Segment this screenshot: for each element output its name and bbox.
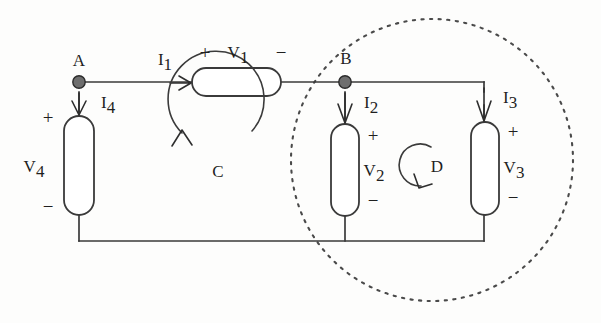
label-v3-minus: − bbox=[508, 187, 519, 208]
current-arrow-i4 bbox=[72, 93, 86, 115]
current-arrow-i3 bbox=[477, 88, 491, 121]
label-voltage-v2: V2 bbox=[364, 161, 385, 185]
component-r4 bbox=[64, 116, 94, 215]
component-r1 bbox=[192, 68, 281, 96]
component-r3 bbox=[471, 122, 499, 215]
circuit-schematic: A B I1 I4 I2 I3 + V1 − + V4 − + V2 − + V… bbox=[0, 0, 601, 323]
node-b-dot bbox=[339, 76, 351, 88]
label-current-i3: I3 bbox=[503, 88, 517, 112]
label-node-a: A bbox=[73, 51, 86, 70]
component-r2 bbox=[331, 124, 359, 216]
node-a-dot bbox=[73, 76, 85, 88]
label-v2-plus: + bbox=[368, 125, 379, 146]
label-voltage-v4: V4 bbox=[24, 157, 45, 181]
label-v1-minus: − bbox=[276, 42, 287, 63]
label-v4-minus: − bbox=[43, 196, 54, 217]
current-arrow-i2 bbox=[338, 93, 352, 123]
label-voltage-v3: V3 bbox=[504, 158, 525, 182]
label-node-b: B bbox=[340, 49, 351, 68]
label-loop-d: D bbox=[431, 157, 443, 176]
label-v4-plus: + bbox=[43, 107, 54, 128]
label-v2-minus: − bbox=[368, 190, 379, 211]
label-current-i4: I4 bbox=[101, 93, 116, 117]
loop-arc-d bbox=[399, 144, 431, 186]
label-current-i1: I1 bbox=[158, 50, 172, 74]
label-loop-c: C bbox=[212, 162, 223, 181]
label-current-i2: I2 bbox=[364, 93, 378, 117]
circuit-diagram-canvas: A B I1 I4 I2 I3 + V1 − + V4 − + V2 − + V… bbox=[0, 0, 601, 323]
label-v1-plus: + bbox=[200, 42, 211, 63]
label-v3-plus: + bbox=[508, 121, 519, 142]
label-voltage-v1: V1 bbox=[228, 43, 249, 67]
